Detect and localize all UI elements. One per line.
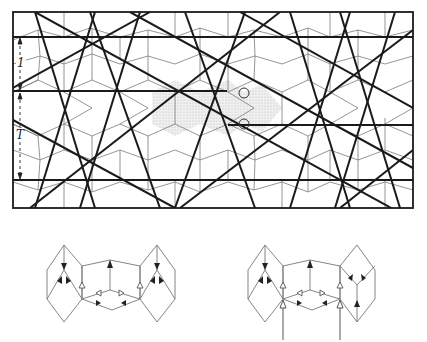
label-long-spacing: T — [15, 128, 25, 142]
left-subdiagram — [47, 245, 175, 322]
tiling-figure — [0, 0, 427, 342]
label-short-spacing: 1 — [16, 56, 26, 70]
right-subdiagram — [248, 245, 375, 340]
